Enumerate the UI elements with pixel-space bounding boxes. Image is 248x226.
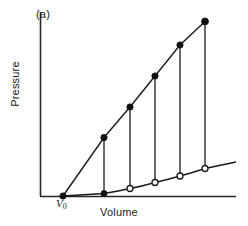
- data-point-filled: [101, 134, 107, 140]
- data-point-filled: [152, 73, 158, 79]
- data-point-filled: [202, 18, 209, 25]
- figure-panel-a: (a) Pressure Volume V0: [0, 0, 248, 226]
- data-point-filled: [127, 104, 133, 110]
- upper-line-path: [63, 22, 205, 197]
- origin-tick-label: V0: [56, 197, 67, 211]
- data-point-open: [127, 186, 133, 192]
- origin-tick-symbol: V: [56, 197, 63, 209]
- data-point-open: [177, 173, 183, 179]
- x-axis-label: Volume: [100, 206, 138, 218]
- lower-curve-path: [63, 162, 236, 196]
- y-axis-label: Pressure: [9, 49, 21, 119]
- origin-tick-subscript: 0: [63, 202, 67, 211]
- upper-line-markers: [60, 18, 209, 199]
- data-point-filled: [177, 42, 183, 48]
- data-point-open: [202, 166, 208, 172]
- data-point-filled: [101, 191, 107, 197]
- connector-lines: [104, 22, 205, 194]
- panel-label: (a): [36, 8, 50, 20]
- data-point-open: [152, 180, 158, 186]
- plot-area: [0, 0, 248, 226]
